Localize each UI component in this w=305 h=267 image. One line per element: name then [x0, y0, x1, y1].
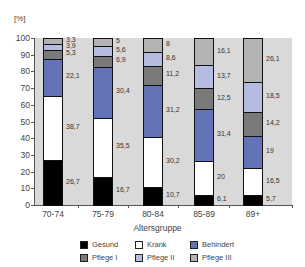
x-tick-label: 89+: [233, 209, 273, 219]
y-tick-label: 40: [6, 133, 30, 143]
legend-swatch: [135, 254, 143, 262]
bar-segment-krank: [43, 96, 63, 162]
value-label: 16,7: [116, 186, 130, 193]
bar-segment-krank: [93, 118, 113, 178]
legend-swatch: [190, 254, 198, 262]
value-label: 5: [116, 37, 120, 44]
y-tick-label: 70: [6, 83, 30, 93]
value-label: 12,5: [217, 94, 231, 101]
y-tick-label: 10: [6, 183, 30, 193]
y-tick-mark: [31, 71, 34, 72]
bar-segment-gesund: [243, 195, 263, 206]
value-label: 8,6: [166, 54, 176, 61]
bar-segment-pflege-iii: [43, 38, 63, 45]
legend-label: Behindert: [202, 240, 234, 249]
bar-segment-gesund: [43, 160, 63, 206]
y-tick-label: 100: [6, 33, 30, 43]
y-tick-label: 0: [6, 200, 30, 210]
bar-segment-pflege-ii: [243, 82, 263, 114]
y-tick-mark: [31, 105, 34, 106]
y-tick-mark: [31, 55, 34, 56]
bar-segment-krank: [143, 137, 163, 188]
value-label: 20: [217, 173, 225, 180]
value-label: 31,2: [166, 106, 180, 113]
x-tick-label: 75-79: [83, 209, 123, 219]
legend-item-pflege-i: Pflege I: [80, 253, 117, 262]
bar-segment-pflege-iii: [93, 38, 113, 47]
legend-label: Pflege II: [147, 253, 175, 262]
x-tick-label: 85-89: [184, 209, 224, 219]
value-label: 26,1: [266, 55, 280, 62]
x-tick-mark: [292, 205, 293, 208]
legend-item-krank: Krank: [135, 240, 167, 249]
bar-segment-behindert: [43, 59, 63, 97]
legend-item-pflege-iii: Pflege III: [190, 253, 232, 262]
value-label: 38,7: [66, 123, 80, 130]
value-label: 8: [166, 40, 170, 47]
y-tick-mark: [31, 138, 34, 139]
bar-segment-behindert: [143, 85, 163, 138]
legend-swatch: [190, 241, 198, 249]
x-axis-title: Altersgruppe: [0, 223, 305, 233]
value-label: 31,4: [217, 130, 231, 137]
x-tick-label: 70-74: [33, 209, 73, 219]
bar-segment-behindert: [243, 136, 263, 169]
bar-segment-behindert: [194, 109, 214, 162]
bar-segment-krank: [194, 161, 214, 195]
value-label: 26,7: [66, 178, 80, 185]
y-tick-label: 60: [6, 100, 30, 110]
value-label: 3,9: [66, 42, 76, 49]
y-tick-label: 90: [6, 50, 30, 60]
bar-segment-behindert: [93, 67, 113, 119]
bar-segment-pflege-i: [143, 66, 163, 86]
value-label: 35,5: [116, 142, 130, 149]
y-tick-mark: [31, 205, 34, 206]
bar-segment-pflege-iii: [194, 38, 214, 66]
y-tick-mark: [31, 155, 34, 156]
bar-segment-pflege-ii: [143, 52, 163, 67]
y-axis: [34, 38, 35, 206]
value-label: 10,7: [166, 191, 180, 198]
bar-segment-gesund: [143, 187, 163, 206]
y-tick-label: 30: [6, 150, 30, 160]
y-tick-mark: [31, 122, 34, 123]
bar-segment-pflege-i: [93, 56, 113, 69]
legend-swatch: [80, 254, 88, 262]
y-tick-label: 50: [6, 117, 30, 127]
bar-segment-krank: [243, 168, 263, 197]
legend-label: Krank: [147, 240, 167, 249]
x-tick-mark: [78, 205, 79, 208]
value-label: 3,3: [66, 36, 76, 43]
value-label: 22,1: [66, 72, 80, 79]
y-tick-mark: [31, 172, 34, 173]
value-label: 5,7: [266, 195, 276, 202]
value-label: 19: [266, 147, 274, 154]
y-tick-label: 20: [6, 167, 30, 177]
legend-item-behindert: Behindert: [190, 240, 234, 249]
bar-segment-pflege-i: [243, 112, 263, 137]
value-label: 30,4: [116, 87, 130, 94]
legend-item-gesund: Gesund: [80, 240, 118, 249]
legend-label: Pflege III: [202, 253, 232, 262]
legend-swatch: [135, 241, 143, 249]
value-label: 16,5: [266, 177, 280, 184]
value-label: 13,7: [217, 72, 231, 79]
value-label: 30,2: [166, 157, 180, 164]
bar-segment-pflege-iii: [143, 38, 163, 52]
y-axis-unit: [%]: [14, 14, 26, 23]
bar-segment-pflege-ii: [93, 46, 113, 56]
legend-item-pflege-ii: Pflege II: [135, 253, 175, 262]
x-tick-label: 80-84: [133, 209, 173, 219]
value-label: 5,3: [66, 49, 76, 56]
legend-swatch: [80, 241, 88, 249]
bar-segment-gesund: [93, 177, 113, 206]
bar-segment-pflege-iii: [243, 38, 263, 83]
bar-segment-pflege-ii: [194, 65, 214, 89]
bar-segment-pflege-i: [194, 88, 214, 110]
value-label: 5,6: [116, 46, 126, 53]
legend-label: Gesund: [92, 240, 118, 249]
x-tick-mark: [128, 205, 129, 208]
value-label: 18,5: [266, 92, 280, 99]
bar-segment-pflege-i: [43, 50, 63, 60]
legend-label: Pflege I: [92, 253, 117, 262]
